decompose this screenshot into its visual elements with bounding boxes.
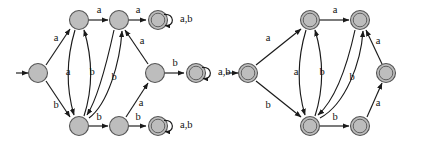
self-loop-label: a,b (180, 119, 193, 130)
edge-left-rightmid-to-topmid (125, 30, 148, 64)
figure-canvas: a b a a a b b a b a b b a,b a,b a,b (0, 0, 421, 146)
left-top-mid-state[interactable] (110, 11, 129, 30)
edge-label: a (139, 97, 144, 108)
edge-right-start-to-topleft (256, 29, 301, 65)
right-start-state[interactable] (239, 64, 258, 83)
edge-label: a (54, 32, 59, 43)
edge-label: a (136, 4, 141, 15)
edge-label: b (172, 57, 177, 68)
left-right-mid-state[interactable] (146, 64, 165, 83)
left-mid-accepting-state[interactable] (187, 64, 206, 83)
left-top-state[interactable] (70, 11, 89, 30)
left-automaton: a b a a a b b a b a b b a,b a,b a,b (16, 4, 231, 135)
edge-label: a (376, 35, 381, 46)
edge-label: b (96, 111, 101, 122)
self-loop-label: a,b (218, 66, 231, 77)
edge-label: b (265, 99, 270, 110)
edge-label: a (97, 4, 102, 15)
edge-label: b (135, 111, 140, 122)
right-middle-right-state[interactable] (377, 64, 396, 83)
automata-figure: a b a a a b b a b a b b a,b a,b a,b (0, 0, 421, 146)
right-top-right-state[interactable] (351, 11, 370, 30)
right-automaton: a b a a b b a a b (226, 4, 396, 135)
self-loop-label: a,b (180, 13, 193, 24)
edge-label: b (332, 111, 337, 122)
edge-label: b (319, 66, 324, 77)
left-bottom-mid-state[interactable] (110, 117, 129, 136)
edge-label: b (349, 71, 354, 82)
edge-label: b (89, 66, 94, 77)
left-start-state[interactable] (29, 64, 48, 83)
edge-right-topleft-to-bottomleft-a (299, 30, 306, 115)
edge-label: a (376, 97, 381, 108)
edge-label: a (333, 4, 338, 15)
edge-label: a (266, 32, 271, 43)
right-bottom-left-state[interactable] (301, 117, 320, 136)
left-bottom-state[interactable] (70, 117, 89, 136)
left-top-accepting-state[interactable] (149, 11, 168, 30)
edge-label: b (111, 71, 116, 82)
edge-label: b (53, 99, 58, 110)
edge-right-start-to-bottomleft (256, 81, 301, 117)
right-bottom-right-state[interactable] (351, 117, 370, 136)
edge-label: a (66, 66, 71, 77)
right-top-left-state[interactable] (301, 11, 320, 30)
edge-label: a (140, 35, 145, 46)
left-bottom-accepting-state[interactable] (149, 117, 168, 136)
edge-label: a (294, 66, 299, 77)
